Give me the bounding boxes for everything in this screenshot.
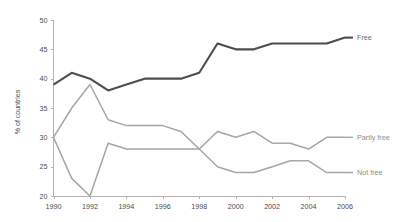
y-tick-label: 45 bbox=[40, 45, 48, 54]
y-axis-title: % of countries bbox=[14, 89, 21, 134]
y-tick-label: 40 bbox=[40, 74, 48, 83]
x-tick-label: 1990 bbox=[46, 202, 62, 211]
x-tick-label: 1994 bbox=[118, 202, 134, 211]
x-tick-label: 2000 bbox=[228, 202, 244, 211]
x-tick-label: 2006 bbox=[337, 202, 353, 211]
x-tick-label: 1996 bbox=[155, 202, 171, 211]
series-group bbox=[54, 38, 354, 196]
line-chart: 20253035404550 1990199219941996199820002… bbox=[0, 0, 402, 222]
legend-label-free: Free bbox=[357, 33, 372, 42]
x-tick-label: 1992 bbox=[82, 202, 98, 211]
y-tick-label: 25 bbox=[40, 162, 48, 171]
series-line-free bbox=[54, 38, 346, 91]
x-tick-label: 1998 bbox=[191, 202, 207, 211]
legend-label-not_free: Not free bbox=[357, 168, 383, 177]
y-tick-group: 20253035404550 bbox=[40, 16, 54, 201]
chart-container: 20253035404550 1990199219941996199820002… bbox=[0, 0, 402, 222]
y-tick-label: 35 bbox=[40, 104, 48, 113]
x-tick-label: 2004 bbox=[301, 202, 317, 211]
y-tick-label: 50 bbox=[40, 16, 48, 25]
x-tick-label: 2002 bbox=[264, 202, 280, 211]
y-tick-label: 30 bbox=[40, 133, 48, 142]
x-tick-group: 199019921994199619982000200220042006 bbox=[46, 196, 354, 211]
y-tick-label: 20 bbox=[40, 192, 48, 201]
series-line-partly-free bbox=[54, 85, 346, 150]
legend-label-partly_free: Partly free bbox=[357, 133, 390, 142]
legend-group: FreePartly freeNot free bbox=[357, 33, 390, 177]
